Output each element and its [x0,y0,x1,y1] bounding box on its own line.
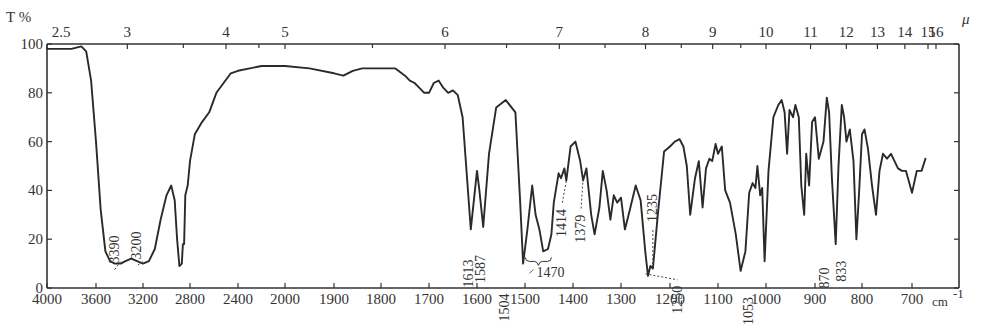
top-tick-label: 14 [897,24,913,40]
y-tick-label: 20 [28,231,43,247]
top-tick-label: 16 [929,24,945,40]
peak-label: 870 [817,268,832,289]
top-tick-label: 8 [642,24,650,40]
x-tick-label: 800 [851,291,874,307]
peak-label: 1235 [645,194,660,222]
top-tick-label: 2.5 [52,24,71,40]
top-tick-label: 12 [839,24,854,40]
top-tick-label: 13 [870,24,885,40]
y-tick-label: 80 [28,85,43,101]
x-tick-label: 2400 [223,291,253,307]
peak-label: 1379 [573,215,588,243]
x-tick-label: 1500 [510,291,540,307]
y-axis: 020406080100 [21,36,960,296]
bottom-axis-unit-exponent: -1 [953,286,964,301]
top-tick-label: 5 [281,24,289,40]
peak-label: 3390 [107,236,122,264]
y-axis-title: T % [6,9,31,25]
x-tick-label: 3200 [128,291,158,307]
peak-label: 1504 [497,294,512,322]
peak-label: 1470 [536,265,564,280]
bottom-axis-unit: cm [932,294,948,309]
peak-label: 1250 [670,286,685,314]
top-axis-unit: μ [961,11,970,27]
top-tick-label: 11 [803,24,817,40]
top-tick-label: 4 [222,24,230,40]
plot-frame [47,44,959,288]
spectrum-line [47,46,925,275]
x-tick-label: 2000 [270,291,300,307]
ir-spectrum-chart: 020406080100 400036003200280024002000190… [0,0,981,328]
x-tick-label: 4000 [32,291,62,307]
x-tick-label: 1900 [319,291,349,307]
x-tick-label: 1400 [558,291,588,307]
x-tick-label: 2800 [175,291,205,307]
x-tick-label: 1100 [703,291,732,307]
x-tick-label: 1300 [606,291,636,307]
x-tick-label: 1600 [462,291,492,307]
x-tick-label: 1800 [366,291,396,307]
x-axis-wavenumber: 4000360032002800240020001900180017001600… [32,283,923,307]
x-axis-wavelength: 2.5345678910111213141516 [47,24,944,49]
y-tick-label: 100 [21,36,44,52]
x-tick-label: 3600 [81,291,111,307]
x-tick-label: 1700 [414,291,444,307]
top-tick-label: 9 [709,24,717,40]
y-tick-label: 60 [28,134,43,150]
top-tick-label: 7 [556,24,564,40]
spectrum-trace [47,46,925,275]
peak-label: 833 [834,261,849,282]
y-tick-label: 40 [28,182,43,198]
top-tick-label: 10 [759,24,774,40]
peak-label: 1414 [554,209,569,237]
x-tick-label: 700 [901,291,924,307]
top-tick-label: 3 [124,24,132,40]
top-tick-label: 6 [441,24,449,40]
peak-label: 3200 [129,232,144,260]
peak-label: 1053 [741,297,756,325]
peak-label: 1587 [473,255,488,283]
x-tick-label: 900 [804,291,827,307]
